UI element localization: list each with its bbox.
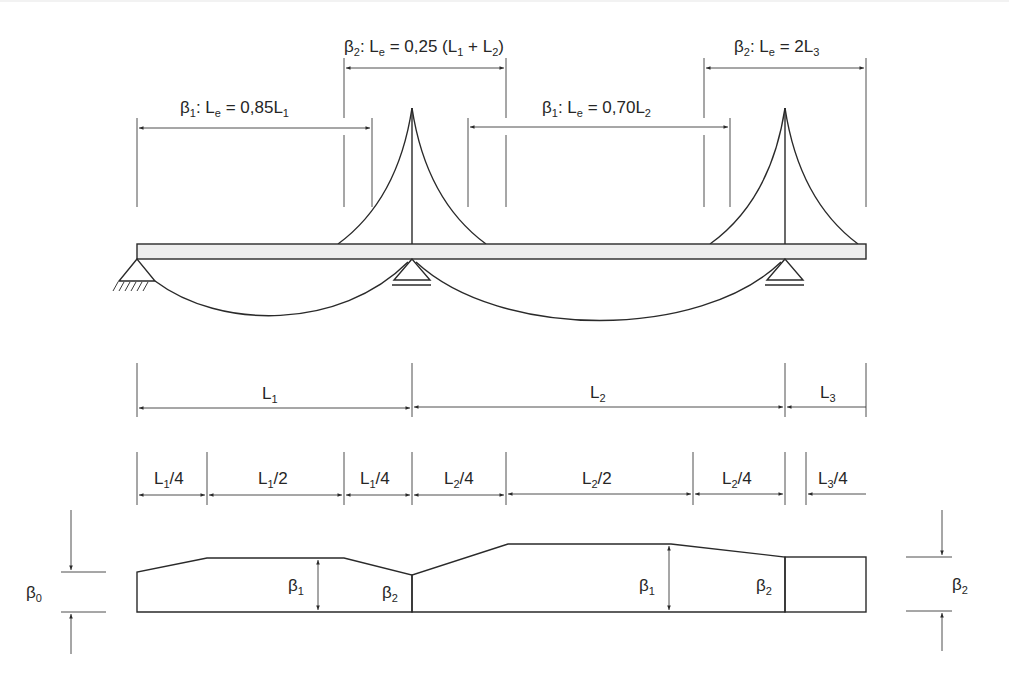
beta-profile-span-3: [785, 557, 866, 612]
bridge-deck: [137, 244, 866, 259]
sub-span-label-6: L2/4: [722, 469, 752, 490]
sub-span-label-7: L3/4: [818, 469, 848, 490]
beta0-dimension: [61, 510, 106, 654]
bridge-diagram: β2: Le = 0,25 (L1 + L2) β1: Le = 0,85L1 …: [0, 0, 1009, 679]
effective-length-dims: [137, 58, 866, 207]
sub-span-dims: [137, 452, 866, 505]
label-beta2-le-2l3: β2: Le = 2L3: [734, 37, 819, 58]
label-beta2-le-l1-l2: β2: Le = 0,25 (L1 + L2): [344, 37, 504, 58]
beta-profile-span-2: [412, 544, 785, 612]
label-beta1-span-2: β1: [639, 576, 655, 597]
sub-span-label-3: L1/4: [360, 469, 390, 490]
label-beta2-span-1: β2: [382, 583, 398, 604]
label-beta2-right: β2: [952, 575, 968, 596]
beta2-dimension-right: [906, 510, 952, 651]
span-label-l2: L2: [590, 383, 606, 404]
sub-span-label-5: L2/2: [582, 469, 612, 490]
sub-span-label-2: L1/2: [258, 469, 288, 490]
roller-support-2: [765, 259, 804, 285]
tower-2: [710, 108, 858, 244]
sub-span-label-4: L2/4: [444, 469, 474, 490]
label-beta1-span-1: β1: [288, 576, 304, 597]
sub-span-label-1: L1/4: [154, 469, 184, 490]
label-beta0: β0: [26, 583, 42, 604]
pinned-support-left: [113, 259, 155, 291]
beta-profile-span-1: [137, 558, 412, 612]
label-beta1-le-085l1: β1: Le = 0,85L1: [180, 98, 289, 119]
span-dims: [137, 363, 866, 417]
buckling-curve-span-1: [155, 262, 408, 316]
span-label-l3: L3: [820, 383, 836, 404]
span-label-l1: L1: [262, 384, 278, 405]
label-beta1-le-070l2: β1: Le = 0,70L2: [542, 98, 651, 119]
buckling-curve-span-2: [416, 262, 781, 321]
label-beta2-span-2: β2: [756, 576, 772, 597]
